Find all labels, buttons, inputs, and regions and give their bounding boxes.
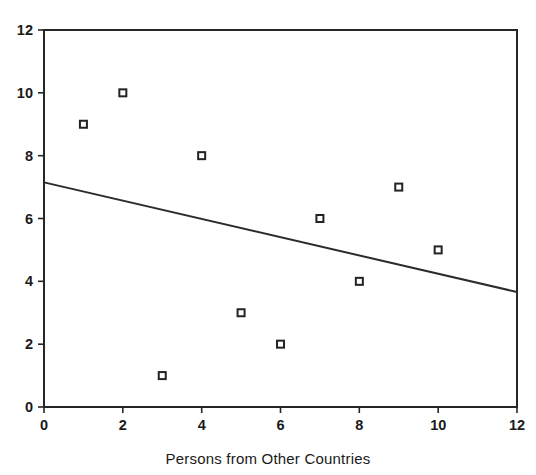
y-tick-label: 10	[17, 85, 33, 101]
x-tick-label: 0	[40, 417, 48, 433]
plot-frame	[44, 30, 517, 407]
x-tick-label: 4	[198, 417, 206, 433]
regression-trend-line	[44, 182, 517, 292]
scatter-point	[159, 372, 166, 379]
x-tick-label: 2	[119, 417, 127, 433]
y-tick-label: 4	[25, 273, 33, 289]
scatter-point	[395, 184, 402, 191]
scatter-marker-group	[80, 89, 442, 379]
scatter-plot-figure: 0 2 4 6 8 10 12 0 2 4 6 8 10 12 Persons …	[0, 0, 536, 475]
scatter-point	[356, 278, 363, 285]
x-tick-label: 12	[509, 417, 525, 433]
y-tick-label: 8	[25, 148, 33, 164]
scatter-point	[277, 341, 284, 348]
scatter-point	[238, 309, 245, 316]
x-axis-title: Persons from Other Countries	[166, 450, 371, 467]
x-tick-label: 8	[355, 417, 363, 433]
x-tick-label: 10	[430, 417, 446, 433]
scatter-point	[80, 121, 87, 128]
scatter-point	[316, 215, 323, 222]
x-tick-label: 6	[276, 417, 284, 433]
scatter-point	[198, 152, 205, 159]
y-tick-label: 12	[17, 22, 33, 38]
x-axis-tick-labels: 0 2 4 6 8 10 12	[40, 417, 525, 433]
y-tick-label: 6	[25, 211, 33, 227]
y-axis-tick-labels: 0 2 4 6 8 10 12	[17, 22, 33, 415]
scatter-point	[119, 89, 126, 96]
y-tick-label: 2	[25, 336, 33, 352]
y-tick-label: 0	[25, 399, 33, 415]
plot-canvas: 0 2 4 6 8 10 12 0 2 4 6 8 10 12 Persons …	[0, 0, 536, 475]
scatter-point	[435, 246, 442, 253]
